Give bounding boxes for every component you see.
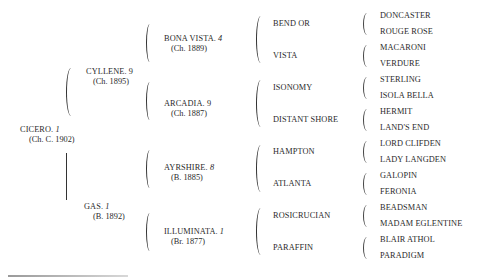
gg-grandparent-8: LORD CLIFDEN bbox=[380, 139, 441, 149]
bracket-gp-2 bbox=[146, 150, 153, 188]
subject-name-text: CICERO. bbox=[20, 125, 53, 134]
dam-name-text: GAS. bbox=[84, 202, 103, 211]
bracket-ggp-0 bbox=[256, 16, 263, 63]
gg-grandparent-13: MADAM EGLENTINE bbox=[380, 219, 462, 229]
grandparent-2-number: 8 bbox=[210, 163, 214, 172]
gg-grandparent-10: GALOPIN bbox=[380, 171, 417, 181]
grandparent-0-number: 4 bbox=[218, 34, 222, 43]
grandparent-1-number: 9 bbox=[207, 99, 211, 108]
bracket-ggp-3 bbox=[256, 208, 263, 255]
gg-grandparent-4: STERLING bbox=[380, 75, 421, 85]
bracket-ggp-2 bbox=[256, 145, 263, 192]
grandparent-2: AYRSHIRE. 8 bbox=[164, 163, 214, 173]
bracket-gp-3 bbox=[146, 213, 153, 251]
dam-detail: (B. 1892) bbox=[93, 212, 125, 222]
subject-family-number: 1 bbox=[55, 125, 59, 134]
gg-grandparent-7: LAND'S END bbox=[380, 123, 429, 133]
grandparent-1: ARCADIA. 9 bbox=[164, 99, 211, 109]
gg-grandparent-15: PARADIGM bbox=[380, 251, 424, 261]
gg-grandparent-9: LADY LANGDEN bbox=[380, 155, 446, 165]
gg-grandparent-1: ROUGE ROSE bbox=[380, 27, 433, 37]
gg-grandparent-2: MACARONI bbox=[380, 43, 426, 53]
great-grandparent-6: ROSICRUCIAN bbox=[273, 211, 330, 221]
bracket-gggp-3 bbox=[363, 109, 368, 131]
great-grandparent-7: PARAFFIN bbox=[273, 243, 313, 253]
gg-grandparent-5: ISOLA BELLA bbox=[380, 91, 434, 101]
subject-detail: (Ch. C. 1902) bbox=[29, 135, 75, 145]
sire-detail: (Ch. 1895) bbox=[93, 77, 129, 87]
bracket-sire bbox=[66, 68, 73, 116]
sire-name-text: CYLLENE. bbox=[86, 67, 127, 76]
bracket-gggp-4 bbox=[363, 141, 368, 163]
grandparent-1-name: ARCADIA. bbox=[164, 99, 205, 108]
bracket-gp-0 bbox=[146, 24, 153, 62]
bracket-gggp-0 bbox=[363, 13, 368, 35]
great-grandparent-5: ATLANTA bbox=[273, 179, 311, 189]
sire-name: CYLLENE. 9 bbox=[86, 67, 133, 77]
grandparent-3-detail: (Br. 1877) bbox=[171, 237, 205, 247]
grandparent-0: BONA VISTA. 4 bbox=[164, 34, 222, 44]
grandparent-2-name: AYRSHIRE. bbox=[164, 163, 208, 172]
grandparent-2-detail: (B. 1885) bbox=[171, 173, 203, 183]
great-grandparent-4: HAMPTON bbox=[273, 147, 315, 157]
dam-name: GAS. 1 bbox=[84, 202, 110, 212]
great-grandparent-2: ISONOMY bbox=[273, 83, 312, 93]
bracket-gggp-5 bbox=[363, 173, 368, 195]
grandparent-3-number: 1 bbox=[220, 227, 224, 236]
gg-grandparent-12: BEADSMAN bbox=[380, 203, 427, 213]
bracket-gggp-7 bbox=[363, 237, 368, 259]
sire-family-number: 9 bbox=[129, 67, 133, 76]
bracket-gggp-6 bbox=[363, 205, 368, 227]
dam-family-number: 1 bbox=[105, 202, 109, 211]
gg-grandparent-6: HERMIT bbox=[380, 107, 412, 117]
grandparent-3: ILLUMINATA. 1 bbox=[164, 227, 224, 237]
bracket-gp-1 bbox=[146, 82, 153, 120]
gg-grandparent-14: BLAIR ATHOL bbox=[380, 235, 435, 245]
bracket-gggp-2 bbox=[363, 77, 368, 99]
great-grandparent-1: VISTA bbox=[273, 51, 297, 61]
grandparent-0-detail: (Ch. 1889) bbox=[171, 44, 207, 54]
subject-name: CICERO. 1 bbox=[20, 125, 60, 135]
gg-grandparent-3: VERDURE bbox=[380, 59, 420, 69]
bracket-dam bbox=[66, 153, 67, 200]
great-grandparent-3: DISTANT SHORE bbox=[273, 115, 338, 125]
bracket-gggp-1 bbox=[363, 45, 368, 67]
grandparent-3-name: ILLUMINATA. bbox=[164, 227, 218, 236]
grandparent-1-detail: (Ch. 1887) bbox=[171, 109, 207, 119]
bracket-ggp-1 bbox=[256, 80, 263, 127]
gg-grandparent-0: DONCASTER bbox=[380, 11, 431, 21]
great-grandparent-0: BEND OR bbox=[273, 19, 310, 29]
grandparent-0-name: BONA VISTA. bbox=[164, 34, 216, 43]
gg-grandparent-11: FERONIA bbox=[380, 187, 417, 197]
